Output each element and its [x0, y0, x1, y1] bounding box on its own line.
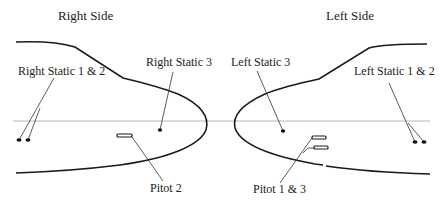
left-static-3-label: Left Static 3: [231, 56, 290, 69]
pitot-1-probe: [312, 136, 326, 139]
right-static-3-port: [158, 128, 162, 132]
right-static-1-2-label: Right Static 1 & 2: [18, 65, 105, 78]
right-static-3-label: Right Static 3: [146, 56, 212, 69]
diagram-canvas: [0, 0, 442, 206]
left-static-3-port: [281, 129, 285, 133]
right-side-title: Right Side: [58, 9, 113, 22]
left-static-2-port: [422, 140, 427, 144]
pitot-1-3-leader: [280, 138, 312, 183]
left-side-title: Left Side: [326, 9, 374, 22]
pitot-2-label: Pitot 2: [150, 182, 182, 195]
left-static-1-2-leader-a: [389, 83, 415, 142]
left-static-3-leader: [257, 71, 283, 131]
right-static-1-2-leader-a: [19, 78, 54, 140]
right-static-2-port: [26, 138, 31, 142]
pitot-1-3-label: Pitot 1 & 3: [253, 183, 306, 196]
left-static-1-port: [413, 140, 418, 144]
pitot-3-probe: [314, 146, 328, 149]
right-static-1-port: [17, 138, 22, 142]
left-static-1-2-label: Left Static 1 & 2: [354, 65, 435, 78]
pitot-2-leader: [132, 137, 163, 181]
pitot-2-probe: [117, 134, 132, 137]
